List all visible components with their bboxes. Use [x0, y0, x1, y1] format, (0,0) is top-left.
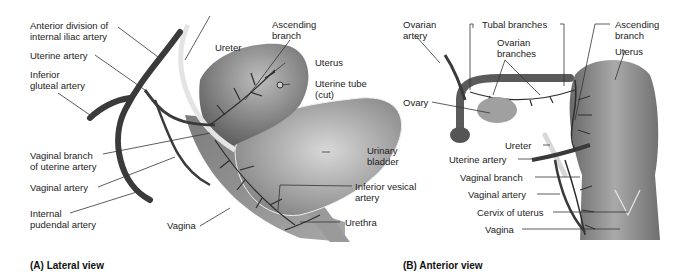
label-inferior-vesical-artery: Inferior vesical artery: [355, 181, 416, 203]
label-vaginal-branch-b: Vaginal branch: [460, 172, 523, 183]
label-uterus-a: Uterus: [315, 57, 343, 68]
label-ovary: Ovary: [403, 97, 428, 108]
caption-anterior-view: (B) Anterior view: [403, 260, 483, 271]
label-internal-pudendal-artery: Internal pudendal artery: [30, 208, 96, 230]
label-vaginal-artery-a: Vaginal artery: [30, 182, 88, 193]
label-uterine-tube-cut: Uterine tube (cut): [315, 78, 367, 100]
label-urethra: Urethra: [345, 217, 377, 228]
label-ureter-b: Ureter: [505, 140, 531, 151]
label-vagina-a: Vagina: [167, 220, 196, 231]
label-ureter-a: Ureter: [215, 42, 241, 53]
label-cervix-of-uterus: Cervix of uterus: [477, 207, 544, 218]
label-uterus-b: Uterus: [615, 46, 643, 57]
label-ascending-branch-a: Ascending branch: [272, 19, 316, 41]
caption-lateral-view: (A) Lateral view: [30, 260, 104, 271]
label-tubal-branches: Tubal branches: [482, 19, 547, 30]
label-inferior-gluteal-artery: Inferior gluteal artery: [30, 69, 85, 91]
panel-a-drawing: [90, 25, 402, 242]
label-anterior-division-internal-iliac: Anterior division of internal iliac arte…: [30, 20, 108, 42]
label-urinary-bladder: Urinary bladder: [367, 145, 399, 167]
label-uterine-artery-a: Uterine artery: [30, 50, 88, 61]
label-ascending-branch-b: Ascending branch: [615, 19, 659, 41]
label-uterine-artery-b: Uterine artery: [449, 154, 507, 165]
label-ovarian-artery: Ovarian artery: [403, 19, 436, 41]
label-ovarian-branches: Ovarian branches: [497, 37, 536, 59]
label-vaginal-artery-b: Vaginal artery: [468, 189, 526, 200]
label-vaginal-branch-uterine-artery: Vaginal branch of uterine artery: [30, 150, 97, 172]
label-vagina-b: Vagina: [485, 224, 514, 235]
